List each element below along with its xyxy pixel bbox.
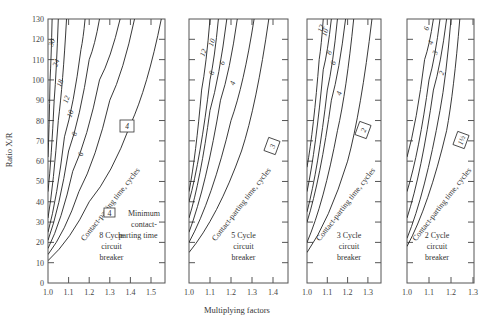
svg-text:Minimum: Minimum xyxy=(128,209,161,218)
x-tick-label: 1.1 xyxy=(322,288,332,297)
x-tick-label: 1.0 xyxy=(43,288,53,297)
y-tick-label: 110 xyxy=(32,56,44,65)
x-tick-label: 1.3 xyxy=(105,288,115,297)
y-tick-label: 30 xyxy=(36,218,44,227)
svg-text:contact-: contact- xyxy=(131,220,157,229)
curve-label: 18 xyxy=(54,78,65,88)
minimum-time-box: 2 xyxy=(355,121,371,138)
curve-label: 4 xyxy=(228,80,238,87)
x-tick-label: 1.1 xyxy=(424,288,434,297)
x-tick-label: 1.4 xyxy=(268,288,278,297)
panel-3: 1.01.11.21.312108642Contact-parting time… xyxy=(302,19,381,297)
curve-label: 6 xyxy=(328,59,338,66)
curve-label: 4 xyxy=(426,39,436,46)
x-tick-label: 1.3 xyxy=(468,288,478,297)
breaker-caption: 2 Cycle xyxy=(425,231,450,240)
multiplying-factor-chart: 0102030405060708090100110120130 1.01.11.… xyxy=(0,0,497,321)
y-tick-label: 90 xyxy=(36,96,44,105)
breaker-caption: 5 Cycle xyxy=(231,231,256,240)
breaker-caption: breaker xyxy=(337,253,361,262)
breaker-caption: breaker xyxy=(100,253,124,262)
curve-label: 24 xyxy=(50,58,61,68)
y-axis-title: Ratio X/R xyxy=(4,132,14,167)
x-tick-label: 1.2 xyxy=(226,288,236,297)
x-tick-label: 1.2 xyxy=(446,288,456,297)
breaker-caption: 3 Cycle xyxy=(337,231,362,240)
y-tick-label: 20 xyxy=(36,238,44,247)
curve-3 xyxy=(407,19,447,218)
x-tick-label: 1.0 xyxy=(302,288,312,297)
minimum-time-box: 4 xyxy=(120,120,134,132)
curve-label: 6 xyxy=(421,25,431,32)
breaker-caption: breaker xyxy=(232,253,256,262)
breaker-caption: circuit xyxy=(427,242,448,251)
curve-label: 10 xyxy=(319,27,330,37)
x-tick-label: 1.2 xyxy=(84,288,94,297)
curve-label: 4 xyxy=(334,90,344,97)
chart-panels: 1.01.11.21.31.41.53024181210864Contact-p… xyxy=(43,19,478,297)
curve-label: 2 xyxy=(437,69,447,76)
curve-8 xyxy=(307,19,337,212)
minimum-time-box: 1½ xyxy=(453,131,469,148)
x-tick-label: 1.1 xyxy=(205,288,215,297)
breaker-caption: circuit xyxy=(233,242,254,251)
curve-label: 12 xyxy=(61,94,72,104)
panel-1: 1.01.11.21.31.41.53024181210864Contact-p… xyxy=(43,19,165,297)
y-tick-label: 120 xyxy=(32,35,44,44)
x-tick-label: 1.5 xyxy=(146,288,156,297)
breaker-caption: breaker xyxy=(425,253,449,262)
y-tick-label: 100 xyxy=(32,76,44,85)
curve-label: 6 xyxy=(217,59,227,66)
x-tick-label: 1.4 xyxy=(125,288,135,297)
y-tick-label: 80 xyxy=(36,117,44,126)
y-tick-label: 0 xyxy=(40,279,44,288)
x-tick-label: 1.2 xyxy=(343,288,353,297)
curve-label: 3 xyxy=(430,49,440,57)
x-axis-title: Multiplying factors xyxy=(204,305,270,315)
svg-text:parting time: parting time xyxy=(119,231,158,240)
curve-4 xyxy=(407,19,440,192)
breaker-caption: circuit xyxy=(339,242,360,251)
x-tick-label: 1.3 xyxy=(363,288,373,297)
x-tick-label: 1.0 xyxy=(184,288,194,297)
y-tick-label: 60 xyxy=(36,157,44,166)
breaker-caption: circuit xyxy=(101,242,122,251)
y-tick-label: 130 xyxy=(32,15,44,24)
curve-10 xyxy=(307,19,331,192)
curve-label: 10 xyxy=(65,108,76,118)
panel-2: 1.01.11.21.31.412108643Contact-parting t… xyxy=(184,19,288,297)
svg-text:4: 4 xyxy=(125,122,129,131)
panel-4: 1.01.11.21.364321½Contact-parting time, … xyxy=(402,19,478,297)
y-tick-label: 10 xyxy=(36,259,44,268)
curve-8 xyxy=(189,19,227,218)
svg-text:4: 4 xyxy=(108,209,112,218)
y-axis: 0102030405060708090100110120130 xyxy=(32,15,44,288)
x-tick-label: 1.1 xyxy=(64,288,74,297)
x-tick-label: 1.3 xyxy=(247,288,257,297)
curve-12 xyxy=(48,19,85,232)
curve-10 xyxy=(48,19,100,240)
y-tick-label: 70 xyxy=(36,137,44,146)
minimum-time-box: 3 xyxy=(264,137,280,154)
y-tick-label: 50 xyxy=(36,177,44,186)
curve-label: 8 xyxy=(324,49,334,56)
y-tick-label: 40 xyxy=(36,198,44,207)
x-tick-label: 1.0 xyxy=(402,288,412,297)
